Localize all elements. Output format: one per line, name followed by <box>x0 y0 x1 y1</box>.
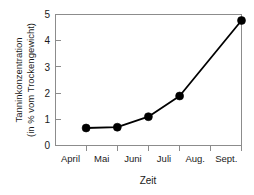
y-tick-label-0: 0 <box>44 140 50 151</box>
tannin-concentration-line-chart: 0 1 2 3 4 5 April Mai Juni Juli Aug. Sep… <box>0 0 254 195</box>
x-axis-title: Zeit <box>140 175 157 186</box>
x-label-juni: Juni <box>124 153 141 164</box>
x-label-aug: Aug. <box>185 153 205 164</box>
x-axis-category-labels: April Mai Juni Juli Aug. Sept. <box>61 153 237 164</box>
data-point-sept <box>238 17 246 25</box>
y-axis-title-line1: Tanninkonzentration <box>13 37 24 122</box>
x-label-mai: Mai <box>94 153 109 164</box>
x-axis-ticks <box>86 146 241 151</box>
y-axis-ticks <box>56 15 61 146</box>
y-tick-label-2: 2 <box>44 88 50 99</box>
x-label-april: April <box>61 153 80 164</box>
y-tick-label-1: 1 <box>44 114 50 125</box>
x-label-sept: Sept. <box>215 153 237 164</box>
series-markers <box>82 17 245 133</box>
y-axis-title: Tanninkonzentration (in % vom Trockengew… <box>13 23 36 137</box>
series-line-tannin <box>86 21 241 129</box>
chart-figure: 0 1 2 3 4 5 April Mai Juni Juli Aug. Sep… <box>0 0 254 195</box>
y-tick-label-5: 5 <box>44 9 50 20</box>
y-axis-title-line2: (in % vom Trockengewicht) <box>25 23 36 137</box>
y-axis-tick-labels: 0 1 2 3 4 5 <box>44 9 50 151</box>
y-tick-label-4: 4 <box>44 35 50 46</box>
data-point-mai <box>113 123 121 131</box>
x-label-juli: Juli <box>157 153 171 164</box>
data-point-juni <box>144 113 152 121</box>
data-point-april <box>82 124 90 132</box>
data-point-aug <box>176 92 184 100</box>
y-tick-label-3: 3 <box>44 62 50 73</box>
